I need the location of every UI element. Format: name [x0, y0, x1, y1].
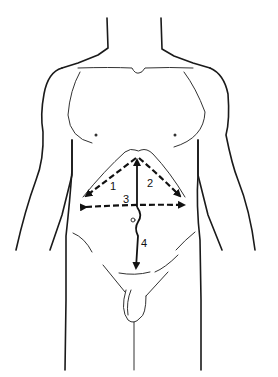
- right-arm-outline: [210, 68, 255, 250]
- anatomical-diagram: 1 2 3 4: [0, 0, 278, 377]
- right-flank-outline: [197, 140, 201, 370]
- genitals-outline: [123, 290, 146, 322]
- left-groin-line: [103, 265, 125, 292]
- pubic-line: [119, 255, 178, 274]
- torso-svg: [0, 0, 278, 377]
- incision-label-1: 1: [110, 181, 116, 192]
- neck-left-outline: [62, 18, 108, 68]
- left-inner-arm-outline: [50, 140, 72, 250]
- incision-label-3: 3: [123, 194, 129, 205]
- right-nipple: [174, 134, 177, 137]
- incision-label-2: 2: [147, 178, 153, 189]
- incision-label-4: 4: [141, 238, 147, 249]
- costal-margin: [83, 149, 185, 197]
- neck-right-outline: [161, 18, 210, 68]
- left-nipple: [95, 134, 98, 137]
- umbilicus: [131, 218, 135, 222]
- right-pectoral-line: [174, 72, 205, 147]
- incision-2: [139, 158, 180, 196]
- clavicle-line: [78, 68, 193, 74]
- incision-4: [136, 207, 140, 268]
- left-arm-outline: [16, 68, 62, 250]
- left-hip-line: [73, 233, 92, 252]
- right-inner-arm-outline: [198, 140, 222, 250]
- right-groin-line: [146, 272, 168, 296]
- left-flank-outline: [65, 140, 72, 370]
- left-pectoral-line: [68, 72, 92, 143]
- right-hip-line: [176, 232, 195, 250]
- incision-3: [86, 205, 184, 207]
